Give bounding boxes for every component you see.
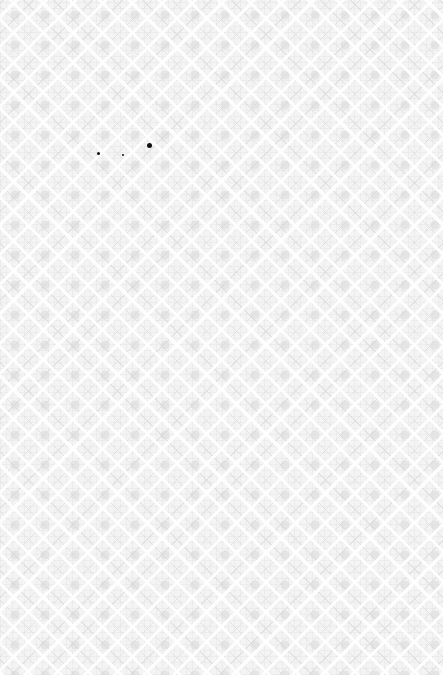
patterned-paper-background xyxy=(0,0,443,675)
ink-speck xyxy=(147,143,152,148)
ink-speck xyxy=(97,152,100,155)
ink-speck xyxy=(122,154,124,156)
